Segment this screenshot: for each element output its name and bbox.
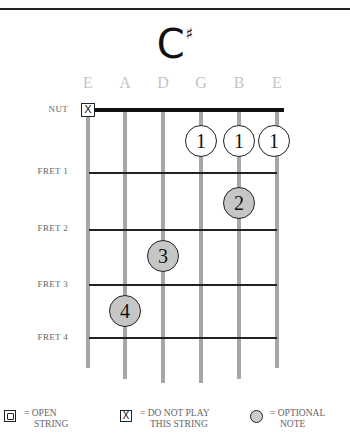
fret-line-1: [89, 172, 277, 174]
finger-dot-e-1: 1: [258, 125, 290, 157]
nut-label: NUT: [0, 104, 68, 114]
string-name-a: A: [115, 74, 135, 92]
nut-bar: [85, 108, 284, 112]
finger-dot-a-4: 4: [109, 295, 141, 327]
chord-title: C♯: [0, 24, 350, 64]
string-low-e: [86, 110, 90, 368]
legend-open-line2: STRING: [34, 419, 68, 430]
legend-open-line1: = OPEN: [24, 408, 57, 419]
legend-optional-line2: NOTE: [280, 419, 305, 430]
chord-root: C: [157, 21, 185, 67]
string-name-high-e: E: [267, 74, 287, 92]
string-name-low-e: E: [78, 74, 98, 92]
finger-dot-g-1: 1: [185, 125, 217, 157]
optional-note-circle-icon: [250, 410, 263, 423]
fret-3-label: FRET 3: [0, 279, 68, 289]
fret-line-2: [89, 229, 277, 231]
string-a: [123, 110, 127, 379]
legend-mute-line2: THIS STRING: [150, 419, 208, 430]
finger-dot-b-1: 1: [223, 125, 255, 157]
string-name-g: G: [191, 74, 211, 92]
fret-line-4: [89, 337, 277, 339]
open-string-icon: [4, 410, 16, 422]
legend-mute-line1: = DO NOT PLAY: [140, 408, 210, 419]
mute-x-icon: X: [81, 103, 95, 117]
fret-2-label: FRET 2: [0, 223, 68, 233]
fret-1-label: FRET 1: [0, 166, 68, 176]
finger-dot-b-2: 2: [223, 187, 255, 219]
string-name-b: B: [229, 74, 249, 92]
string-name-d: D: [153, 74, 173, 92]
legend-optional-line1: = OPTIONAL: [270, 408, 325, 419]
fret-4-label: FRET 4: [0, 332, 68, 342]
mute-x-icon: X: [120, 410, 132, 422]
sharp-symbol: ♯: [186, 24, 194, 43]
top-rule: [0, 8, 350, 10]
finger-dot-d-3: 3: [147, 240, 179, 272]
fret-line-3: [89, 284, 277, 286]
